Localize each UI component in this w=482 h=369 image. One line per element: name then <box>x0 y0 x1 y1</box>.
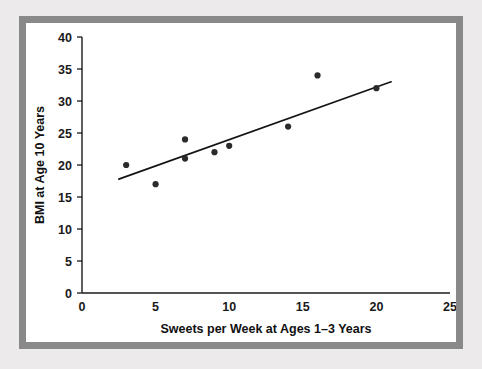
figure-frame: 0510152025303540 0510152025 Sweets per W… <box>19 16 463 349</box>
data-points-group <box>123 72 379 187</box>
x-tick-label: 15 <box>296 300 310 314</box>
x-axis-ticks: 0510152025 <box>79 300 456 314</box>
scatter-plot: 0510152025303540 0510152025 Sweets per W… <box>26 23 456 342</box>
x-tick-label: 10 <box>222 300 236 314</box>
regression-line <box>119 82 391 179</box>
y-tick-label: 25 <box>58 127 72 141</box>
x-tick-label: 0 <box>79 300 86 314</box>
y-axis-ticks: 0510152025303540 <box>58 31 82 301</box>
data-point <box>226 143 232 149</box>
y-tick-label: 10 <box>58 223 72 237</box>
data-point <box>285 124 291 130</box>
data-point <box>182 156 188 162</box>
x-tick-label: 5 <box>152 300 159 314</box>
data-point <box>182 136 188 142</box>
y-tick-label: 5 <box>65 255 72 269</box>
y-tick-label: 20 <box>58 159 72 173</box>
data-point <box>314 72 320 78</box>
y-tick-label: 15 <box>58 191 72 205</box>
data-point <box>123 162 129 168</box>
y-tick-label: 35 <box>58 63 72 77</box>
figure-root: 0510152025303540 0510152025 Sweets per W… <box>0 0 482 369</box>
plot-surface: 0510152025303540 0510152025 Sweets per W… <box>26 23 456 342</box>
y-tick-label: 30 <box>58 95 72 109</box>
y-axis-title: BMI at Age 10 Years <box>33 106 47 224</box>
trend-line-group <box>119 82 391 179</box>
x-tick-label: 20 <box>369 300 383 314</box>
y-tick-label: 40 <box>58 31 72 45</box>
data-point <box>373 85 379 91</box>
data-point <box>153 181 159 187</box>
y-tick-label: 0 <box>65 287 72 301</box>
x-axis-title: Sweets per Week at Ages 1–3 Years <box>160 322 371 336</box>
axes-group <box>82 37 450 293</box>
x-tick-label: 25 <box>443 300 456 314</box>
data-point <box>211 149 217 155</box>
